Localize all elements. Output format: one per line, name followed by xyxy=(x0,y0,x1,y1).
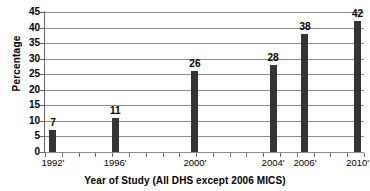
y-axis-tick-mark xyxy=(40,105,45,106)
bar xyxy=(270,65,277,152)
gridline xyxy=(45,12,364,13)
gridline xyxy=(45,152,364,153)
y-axis-tick-mark xyxy=(40,59,45,60)
y-axis-tick-mark xyxy=(40,43,45,44)
bar-value-label: 26 xyxy=(183,59,207,69)
gridline xyxy=(45,43,364,44)
bar xyxy=(112,118,119,152)
gridline xyxy=(45,90,364,91)
y-axis-tick-label: 5 xyxy=(18,131,40,141)
bar-value-label: 7 xyxy=(41,118,65,128)
x-axis-tick-mark xyxy=(79,153,80,157)
x-axis-tick-label: 1992' xyxy=(33,157,73,168)
plot-area xyxy=(45,12,364,152)
x-axis-tick-mark xyxy=(146,153,147,157)
y-axis-tick-label: 10 xyxy=(18,116,40,126)
y-axis-tick-label: 0 xyxy=(18,147,40,157)
gridline xyxy=(45,121,364,122)
y-axis-tick-mark xyxy=(40,28,45,29)
gridline xyxy=(45,136,364,137)
x-axis-tick-label: 2006' xyxy=(285,157,325,168)
y-axis-tick-mark xyxy=(40,136,45,137)
x-axis-tick-label: 1996' xyxy=(95,157,135,168)
bar-value-label: 38 xyxy=(293,22,317,32)
bar xyxy=(301,34,308,152)
x-axis-title: Year of Study (All DHS except 2006 MICS) xyxy=(0,175,370,186)
y-axis-tick-mark xyxy=(40,12,45,13)
x-axis-tick-label: 2010' xyxy=(338,157,370,168)
bar xyxy=(354,21,361,152)
gridline xyxy=(45,74,364,75)
x-axis-tick-label: 2000' xyxy=(175,157,215,168)
y-axis-tick-label: 25 xyxy=(18,69,40,79)
y-axis-tick-mark xyxy=(40,74,45,75)
x-axis-tick-mark xyxy=(330,153,331,157)
bar-value-label: 28 xyxy=(261,53,285,63)
x-axis-tick-mark xyxy=(230,153,231,157)
y-axis-tick-label: 45 xyxy=(18,7,40,17)
y-axis-tick-label: 30 xyxy=(18,54,40,64)
x-axis-tick-mark xyxy=(246,153,247,157)
bar-value-label: 42 xyxy=(346,9,370,19)
y-axis-tick-label: 40 xyxy=(18,23,40,33)
y-axis-tick-mark xyxy=(40,90,45,91)
bar-chart: Percentage 051015202530354045 Year of St… xyxy=(0,0,370,191)
bar xyxy=(49,130,56,152)
bar xyxy=(191,71,198,152)
gridline xyxy=(45,105,364,106)
y-axis-tick-label: 20 xyxy=(18,85,40,95)
y-axis-tick-label: 15 xyxy=(18,100,40,110)
bar-value-label: 11 xyxy=(103,106,127,116)
y-axis-tick-label: 35 xyxy=(18,38,40,48)
x-axis-tick-mark xyxy=(163,153,164,157)
